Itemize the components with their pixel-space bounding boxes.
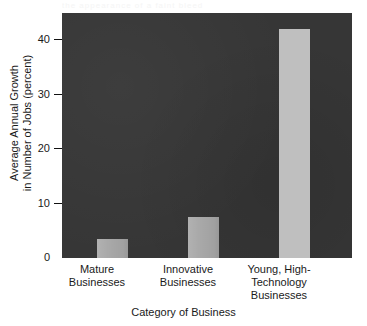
y-axis-title: Average Annual Growth in Number of Jobs … xyxy=(8,25,34,221)
y-axis-title-line-2: in Number of Jobs (percent) xyxy=(21,25,34,221)
x-axis-title: Category of Business xyxy=(0,306,367,319)
y-tick-label-40: 40 xyxy=(28,34,50,45)
x-cat-2-line-2: Technology xyxy=(224,276,334,289)
bar-mature-businesses xyxy=(97,239,128,258)
y-tick-group-30: 30 xyxy=(0,89,50,100)
x-cat-2-line-3: Businesses xyxy=(224,289,334,302)
y-tick-label-30: 30 xyxy=(28,89,50,100)
bar-young-high-technology-businesses xyxy=(279,29,310,258)
y-axis-title-line-1: Average Annual Growth xyxy=(8,25,21,221)
y-tick-label-0: 0 xyxy=(28,252,50,263)
y-tick-label-10: 10 xyxy=(28,198,50,209)
bar-innovative-businesses xyxy=(188,217,219,258)
x-category-label-young-high-technology: Young, High- Technology Businesses xyxy=(224,263,334,302)
y-tick-group-0: 0 xyxy=(0,252,50,263)
y-tick-group-10: 10 xyxy=(0,198,50,209)
plot-area xyxy=(62,13,352,258)
y-tick-label-20: 20 xyxy=(28,143,50,154)
scan-artifact-text: the appearance of a faint bleed xyxy=(62,1,262,10)
y-tick-mark-10 xyxy=(54,203,62,204)
y-tick-group-20: 20 xyxy=(0,143,50,154)
y-tick-mark-40 xyxy=(54,39,62,40)
y-tick-mark-20 xyxy=(54,148,62,149)
x-cat-2-line-1: Young, High- xyxy=(224,263,334,276)
y-tick-group-40: 40 xyxy=(0,34,50,45)
y-tick-mark-30 xyxy=(54,94,62,95)
